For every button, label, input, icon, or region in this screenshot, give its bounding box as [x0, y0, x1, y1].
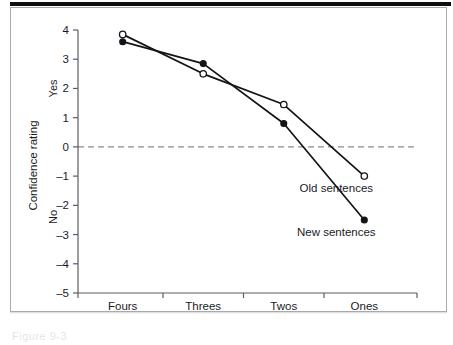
x-axis-category-label: Ones [351, 300, 379, 311]
y-axis-tick-label: 3 [63, 53, 69, 65]
y-axis-tick-label: –3 [56, 229, 69, 241]
top-rule-divider [10, 2, 451, 6]
y-axis-tick-label: –1 [56, 170, 69, 182]
figure-bottom-shadow [10, 312, 447, 314]
series-data-point [281, 121, 287, 127]
y-axis-tick-label: –5 [56, 287, 69, 299]
series-data-point [200, 71, 206, 77]
y-axis-title: Confidence rating [27, 120, 39, 210]
figure-root: 43210–1–2–3–4–5FoursThreesTwosOnesConfid… [0, 0, 453, 345]
y-axis-tick-label: 2 [63, 82, 69, 94]
x-axis-category-label: Threes [185, 300, 221, 311]
x-axis-category-label: Fours [108, 300, 138, 311]
y-axis-tick-label: 0 [63, 141, 69, 153]
figure-frame: 43210–1–2–3–4–5FoursThreesTwosOnesConfid… [10, 7, 447, 312]
series-data-point [200, 61, 206, 67]
series-data-point [361, 217, 367, 223]
series-data-point [281, 101, 287, 107]
y-axis-tick-label: 4 [63, 24, 70, 36]
line-chart: 43210–1–2–3–4–5FoursThreesTwosOnesConfid… [11, 8, 446, 311]
x-axis-category-label: Twos [270, 300, 297, 311]
y-axis-tick-label: –4 [56, 258, 69, 270]
figure-caption-fragment: Figure 9-3 [12, 330, 212, 343]
series-data-point [361, 173, 367, 179]
series-line [123, 34, 365, 176]
series-label: New sentences [297, 226, 376, 238]
y-axis-anchor-label: No [47, 210, 59, 224]
series-label: Old sentences [300, 182, 374, 194]
y-axis-anchor-label: Yes [47, 79, 59, 97]
series-data-point [119, 31, 125, 37]
y-axis-tick-label: –2 [56, 199, 69, 211]
series-data-point [120, 39, 126, 45]
y-axis-tick-label: 1 [63, 112, 69, 124]
